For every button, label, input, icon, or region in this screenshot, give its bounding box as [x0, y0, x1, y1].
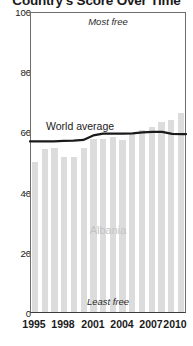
world-average-line — [30, 12, 186, 313]
x-tick-label-2010: 2010 — [158, 318, 192, 330]
annotation-world-average: World average — [46, 120, 114, 132]
country-score-chart: Country's Score Over Time 100 80 60 40 2… — [0, 0, 193, 346]
x-tick-label-1998: 1998 — [46, 318, 80, 330]
annotation-series-albania: Albania — [30, 224, 186, 236]
annotation-least-free: Least free — [30, 296, 186, 307]
y-tick-label-0: 0 — [5, 309, 31, 318]
annotation-most-free: Most free — [30, 16, 186, 27]
